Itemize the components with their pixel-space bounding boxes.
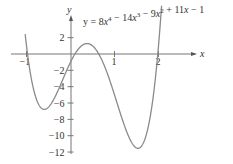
y-axis-label: y [66,4,72,15]
equation-label: y = 8x4 − 14x3 − 9x2 + 11x − 1 [83,4,204,27]
x-axis-arrow-icon [191,52,197,56]
y-axis-arrow-icon [69,15,73,21]
y-tick-label: −8 [54,114,65,125]
x-axis-label: x [199,48,205,59]
polynomial-curve [25,6,161,149]
y-tick-label: −12 [49,147,65,158]
y-tick-label: −2 [54,65,65,76]
y-tick-label: 2 [60,32,65,43]
chart: x y −1122−2−4−6−8−10−12 y = 8x4 − 14x3 −… [0,0,233,164]
x-tick-label: 1 [112,56,117,67]
y-tick-label: −6 [54,98,65,109]
y-tick-label: −10 [49,130,65,141]
